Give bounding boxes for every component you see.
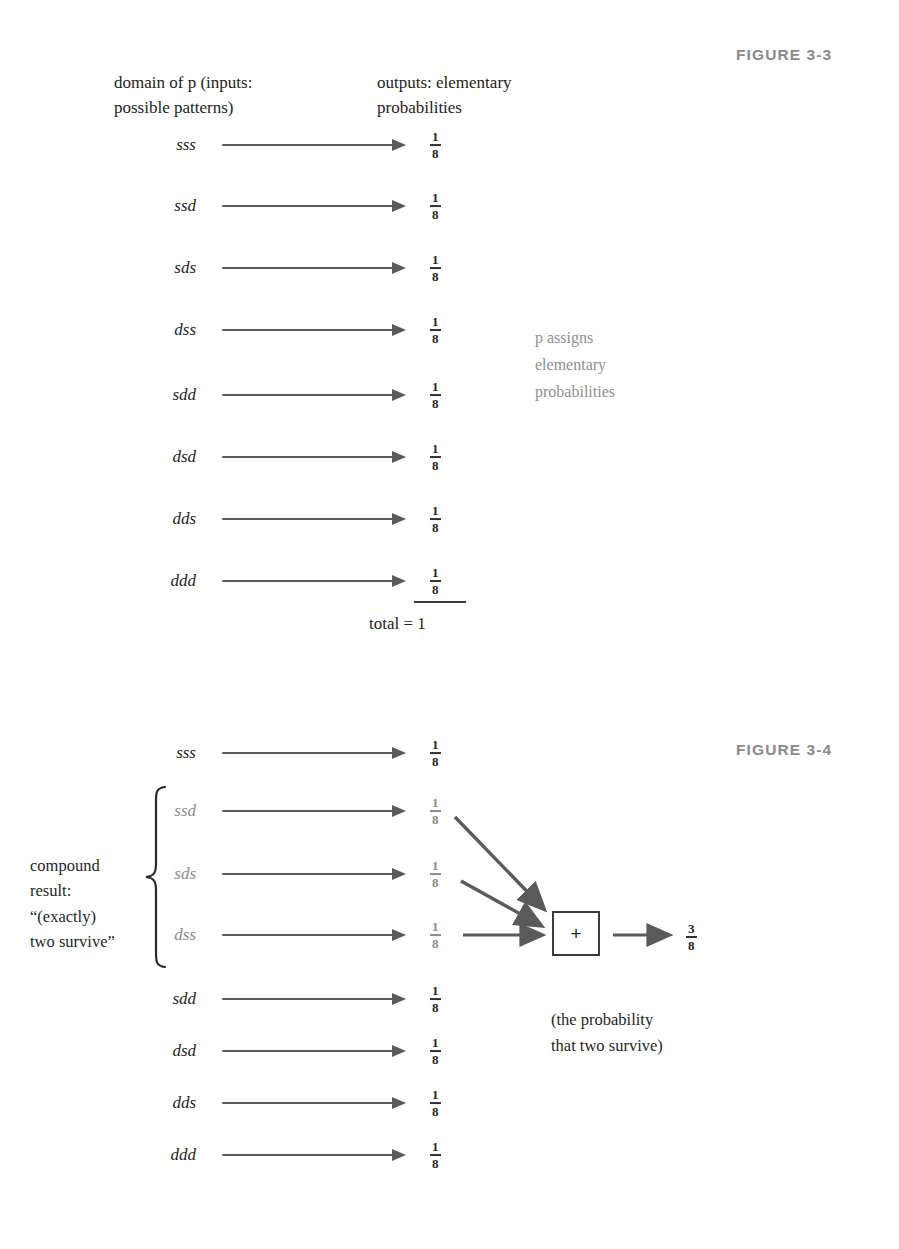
arrow-sds-to-plus bbox=[461, 881, 540, 925]
compound-probability-numerator: 3 bbox=[686, 922, 697, 935]
result-caption: (the probability that two survive) bbox=[551, 981, 771, 1059]
summation-arrows bbox=[0, 0, 899, 1249]
sum-operator-box: + bbox=[552, 911, 600, 956]
figure-page: domain of p (inputs: possible patterns) … bbox=[0, 0, 899, 1249]
compound-probability-denominator: 8 bbox=[686, 939, 697, 952]
sum-operator-symbol: + bbox=[570, 923, 581, 945]
result-caption-text: (the probability that two survive) bbox=[551, 1010, 663, 1055]
compound-probability-value: 3 8 bbox=[686, 922, 697, 952]
arrow-ssd-to-plus bbox=[455, 817, 543, 908]
